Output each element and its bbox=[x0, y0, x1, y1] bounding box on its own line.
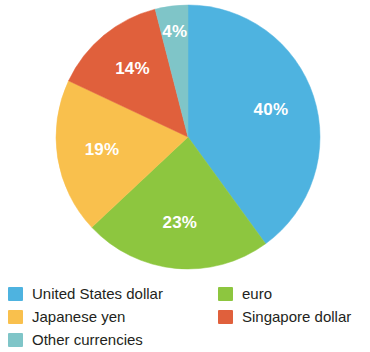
legend-label: Singapore dollar bbox=[242, 309, 351, 325]
legend-swatch-japanese-yen bbox=[8, 310, 23, 324]
legend-column-right: euroSingapore dollar bbox=[218, 282, 370, 328]
legend-column-left: United States dollarJapanese yenOther cu… bbox=[8, 282, 213, 351]
pie-slice-value-japanese-yen: 19% bbox=[85, 140, 120, 159]
pie-slice-value-united-states-dollar: 40% bbox=[254, 100, 289, 119]
legend-swatch-singapore-dollar bbox=[218, 310, 233, 324]
legend-item-japanese-yen[interactable]: Japanese yen bbox=[8, 305, 213, 328]
legend-item-other-currencies[interactable]: Other currencies bbox=[8, 328, 213, 351]
pie-slice-value-singapore-dollar: 14% bbox=[115, 59, 150, 78]
pie-slice-value-euro: 23% bbox=[162, 213, 197, 232]
legend-swatch-united-states-dollar bbox=[8, 287, 23, 301]
legend-item-united-states-dollar[interactable]: United States dollar bbox=[8, 282, 213, 305]
legend-label: Other currencies bbox=[32, 332, 143, 348]
legend-item-singapore-dollar[interactable]: Singapore dollar bbox=[218, 305, 370, 328]
legend-swatch-euro bbox=[218, 287, 233, 301]
legend-item-euro[interactable]: euro bbox=[218, 282, 370, 305]
pie-chart-svg: 40%23%19%14%4% bbox=[0, 0, 370, 282]
pie-chart-plot-area: 40%23%19%14%4% bbox=[0, 0, 370, 282]
legend-label: United States dollar bbox=[32, 286, 163, 302]
pie-chart-figure: 40%23%19%14%4% United States dollarJapan… bbox=[0, 0, 370, 352]
pie-slice-value-other-currencies: 4% bbox=[162, 22, 187, 41]
legend-swatch-other-currencies bbox=[8, 333, 23, 347]
legend-label: Japanese yen bbox=[32, 309, 125, 325]
chart-legend: United States dollarJapanese yenOther cu… bbox=[0, 282, 370, 352]
legend-label: euro bbox=[242, 286, 272, 302]
